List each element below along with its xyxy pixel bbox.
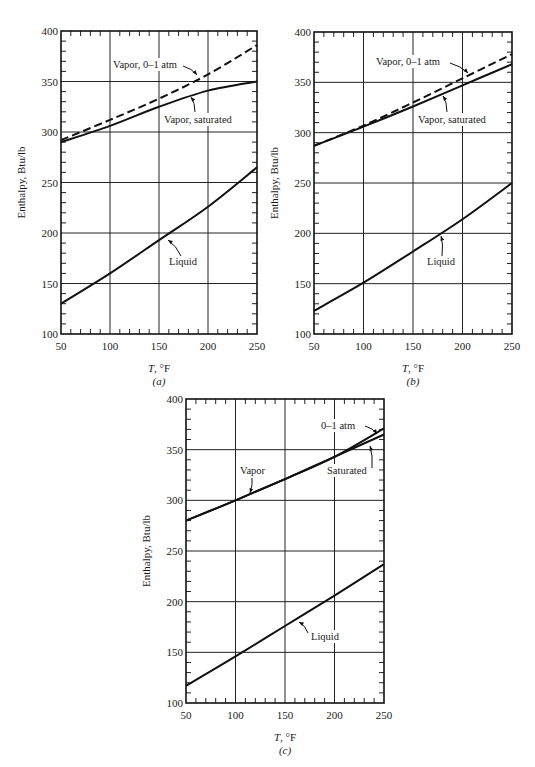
y-tick-label: 200: [42, 227, 59, 239]
y-tick-label: 300: [167, 494, 184, 506]
x-axis-title: T, °F: [148, 362, 170, 374]
x-tick-label: 100: [102, 340, 119, 352]
annotation-vapor-saturated: Vapor, saturated: [417, 96, 504, 126]
panel-caption: (c): [279, 744, 292, 757]
x-tick-label: 50: [56, 340, 68, 352]
y-tick-label: 150: [167, 646, 184, 658]
x-tick-label: 150: [277, 709, 294, 721]
y-tick-label: 300: [42, 126, 59, 138]
y-tick-label: 250: [42, 177, 59, 189]
y-tick-label: 150: [295, 278, 312, 290]
annotation-saturated: Saturated: [326, 446, 376, 477]
annotation-vapor-0-1-atm: Vapor, 0–1 atm: [112, 58, 197, 75]
chart-panel-b: 50100150200250100150200250300350400T, °F…: [268, 26, 521, 388]
y-axis-title: Enthalpy, Btu/lb: [140, 515, 152, 588]
annotation-0-1-atm: 0–1 atm: [320, 419, 377, 434]
y-tick-label: 150: [42, 278, 59, 290]
y-tick-label: 200: [167, 596, 184, 608]
x-tick-label: 200: [454, 340, 471, 352]
y-tick-label: 300: [295, 127, 312, 139]
x-axis-title: T, °F: [402, 362, 424, 374]
svg-text:Liquid: Liquid: [169, 256, 198, 267]
x-tick-label: 250: [376, 709, 393, 721]
x-axis-title: T, °F: [274, 731, 296, 743]
grid-lines: [186, 399, 384, 703]
annotation-vapor-0-1-atm: Vapor, 0–1 atm: [375, 55, 468, 73]
enthalpy-figure: 50100150200250100150200250300350400T, °F…: [0, 0, 535, 767]
svg-text:0–1 atm: 0–1 atm: [321, 420, 355, 431]
y-tick-label: 200: [295, 227, 312, 239]
svg-text:Vapor, 0–1 atm: Vapor, 0–1 atm: [113, 59, 177, 70]
annotation-liquid: Liquid: [299, 622, 344, 643]
chart-panel-c: 50100150200250100150200250300350400T, °F…: [140, 393, 393, 757]
y-tick-label: 250: [167, 545, 184, 557]
arrowhead-icon: [441, 236, 445, 241]
svg-text:Saturated: Saturated: [327, 465, 367, 476]
arrowhead-icon: [370, 446, 374, 451]
y-tick-label: 100: [167, 697, 184, 709]
x-tick-label: 50: [181, 709, 193, 721]
x-tick-label: 150: [151, 340, 168, 352]
x-tick-label: 100: [355, 340, 372, 352]
panel-caption: (b): [407, 375, 420, 388]
annotation-liquid: Liquid: [168, 240, 202, 268]
x-tick-label: 150: [405, 340, 422, 352]
svg-text:Liquid: Liquid: [427, 256, 456, 267]
svg-text:Liquid: Liquid: [311, 631, 340, 642]
y-axis-title: Enthalpy, Btu/lb: [15, 146, 27, 219]
x-tick-label: 200: [200, 340, 217, 352]
y-tick-label: 350: [42, 76, 59, 88]
x-tick-label: 250: [249, 340, 266, 352]
x-tick-label: 100: [227, 709, 244, 721]
svg-text:Vapor, saturated: Vapor, saturated: [164, 114, 233, 125]
y-tick-label: 100: [42, 328, 59, 340]
x-tick-label: 250: [504, 340, 521, 352]
x-tick-label: 50: [309, 340, 321, 352]
panel-caption: (a): [153, 375, 166, 388]
svg-text:Vapor: Vapor: [240, 465, 266, 476]
x-tick-label: 200: [326, 709, 343, 721]
svg-text:Vapor, saturated: Vapor, saturated: [418, 114, 487, 125]
chart-panel-a: 50100150200250100150200250300350400T, °F…: [15, 25, 266, 388]
y-tick-label: 100: [295, 328, 312, 340]
y-tick-label: 400: [167, 393, 184, 405]
y-tick-label: 250: [295, 177, 312, 189]
y-tick-label: 400: [42, 25, 59, 37]
grid-lines: [61, 31, 257, 334]
y-tick-label: 350: [167, 444, 184, 456]
svg-text:Vapor, 0–1 atm: Vapor, 0–1 atm: [376, 56, 440, 67]
y-axis-title: Enthalpy, Btu/lb: [268, 147, 280, 220]
y-tick-label: 350: [295, 76, 312, 88]
y-tick-label: 400: [295, 26, 312, 38]
